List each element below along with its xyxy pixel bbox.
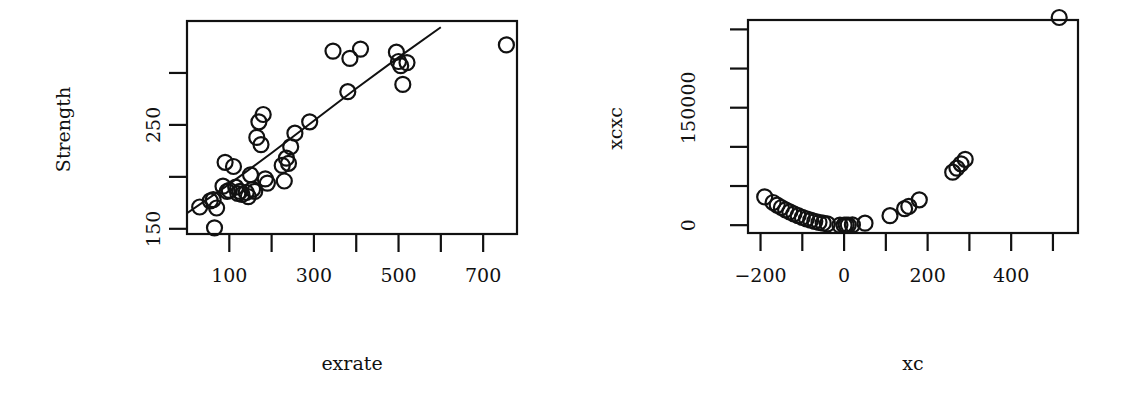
data-point bbox=[277, 174, 292, 189]
x-axis: −2000200400 bbox=[734, 233, 1052, 286]
x-tick-label: −200 bbox=[734, 264, 786, 286]
x-tick-label: 100 bbox=[211, 264, 247, 286]
chart-panel-xc: −20002004000150000xcxcxc bbox=[560, 0, 1120, 404]
data-point bbox=[287, 126, 302, 141]
x-tick-label: 300 bbox=[296, 264, 332, 286]
scatter-plot-xcxc-vs-xc: −20002004000150000xcxcxc bbox=[560, 0, 1121, 404]
data-points bbox=[192, 37, 514, 235]
y-tick-label: 150 bbox=[142, 211, 164, 247]
y-axis: 0150000 bbox=[677, 29, 748, 231]
data-point bbox=[1052, 10, 1067, 25]
chart-panel-exrate: 100300500700150250exrateStrength bbox=[0, 0, 560, 404]
x-tick-label: 500 bbox=[380, 264, 416, 286]
plot-frame bbox=[187, 21, 517, 234]
y-tick-label: 0 bbox=[677, 219, 699, 231]
data-point bbox=[945, 165, 960, 180]
x-axis: 100300500700 bbox=[211, 234, 501, 286]
data-point bbox=[958, 152, 973, 167]
x-tick-label: 0 bbox=[838, 264, 850, 286]
data-point bbox=[353, 42, 368, 57]
x-tick-label: 400 bbox=[993, 264, 1029, 286]
scatter-plot-strength-vs-exrate: 100300500700150250exrateStrength bbox=[0, 0, 560, 404]
y-tick-label: 150000 bbox=[677, 71, 699, 144]
y-tick-label: 250 bbox=[142, 107, 164, 143]
data-point bbox=[395, 77, 410, 92]
x-axis-title: xc bbox=[902, 352, 923, 374]
y-axis-title: Strength bbox=[52, 87, 74, 172]
data-point bbox=[326, 44, 341, 59]
x-tick-label: 200 bbox=[909, 264, 945, 286]
x-tick-label: 700 bbox=[465, 264, 501, 286]
data-point bbox=[949, 161, 964, 176]
data-point bbox=[883, 208, 898, 223]
x-axis-title: exrate bbox=[321, 352, 382, 374]
y-axis-title: xcxc bbox=[604, 107, 626, 150]
data-point bbox=[302, 114, 317, 129]
data-point bbox=[954, 156, 969, 171]
data-point bbox=[499, 37, 514, 52]
data-points bbox=[757, 10, 1066, 233]
y-axis: 150250 bbox=[142, 73, 187, 247]
